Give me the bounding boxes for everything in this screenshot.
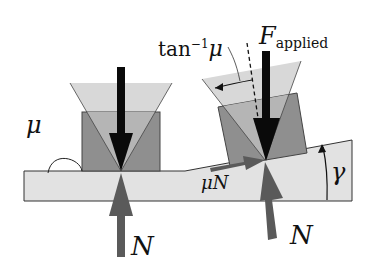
gamma-label: γ [331, 158, 346, 186]
tan-label: tan−1μ [158, 36, 223, 61]
mu-n-label: μN [201, 172, 230, 193]
left-scene: μ N [26, 67, 172, 261]
f-applied-label: Fapplied [258, 22, 328, 51]
n-label-left: N [130, 231, 155, 261]
right-scene: tan−1μ Fapplied μN N γ [158, 22, 346, 250]
n-label-right: N [289, 220, 314, 250]
mu-label: μ [26, 111, 42, 139]
friction-cone-diagram: μ N tan−1μ [0, 0, 374, 265]
